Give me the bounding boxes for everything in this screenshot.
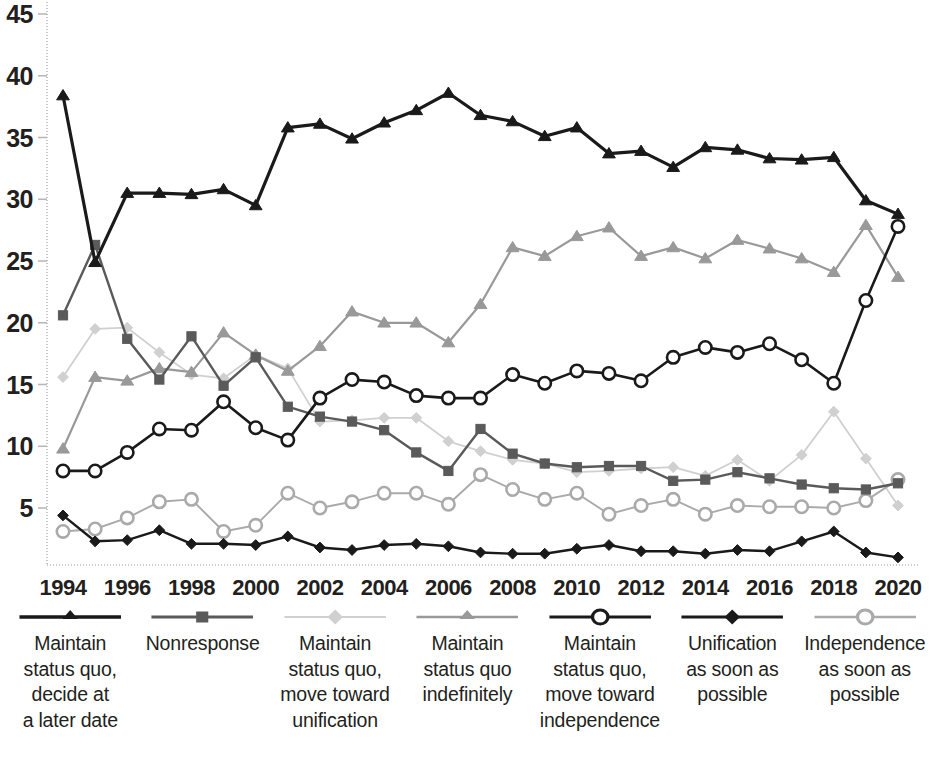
legend-item-5[interactable]: Unification as soon as possible: [666, 604, 798, 708]
data-point-marker: [315, 542, 326, 553]
data-point-marker: [219, 381, 228, 390]
data-point-marker: [732, 545, 743, 556]
data-point-marker: [668, 462, 679, 473]
series-group: [58, 322, 904, 511]
data-point-marker: [282, 434, 294, 446]
data-point-marker: [635, 499, 647, 511]
data-point-marker: [892, 271, 905, 281]
legend-item-6[interactable]: Independence as soon as possible: [799, 604, 931, 708]
y-tick-label: 5: [20, 494, 34, 522]
data-point-marker: [346, 373, 358, 385]
x-tick-label: 1998: [168, 575, 215, 600]
legend-swatch-circle-open-icon: [799, 604, 931, 630]
data-point-marker: [153, 362, 166, 372]
data-point-marker: [570, 122, 583, 132]
data-point-marker: [507, 548, 518, 559]
data-point-marker: [603, 222, 616, 232]
data-point-marker: [249, 422, 261, 434]
data-point-marker: [829, 484, 838, 493]
x-tick-label: 2000: [232, 575, 279, 600]
y-tick-label: 45: [6, 0, 33, 28]
chart-page: 5101520253035404519941996199820002002200…: [0, 0, 935, 758]
data-point-marker: [603, 508, 615, 520]
data-point-marker: [731, 234, 744, 244]
legend-item-2[interactable]: Maintain status quo, move toward unifica…: [269, 604, 401, 733]
data-point-marker: [57, 443, 70, 453]
data-point-marker: [539, 377, 551, 389]
data-point-marker: [732, 454, 743, 465]
data-point-marker: [763, 338, 775, 350]
legend-item-0[interactable]: Maintain status quo, decide at a later d…: [4, 604, 136, 733]
data-point-marker: [669, 476, 678, 485]
legend-swatch-diamond-icon: [269, 604, 401, 630]
legend-swatch-diamond-icon: [666, 604, 798, 630]
data-point-marker: [89, 371, 102, 381]
data-point-marker: [699, 341, 711, 353]
data-point-marker: [603, 367, 615, 379]
data-point-marker: [89, 465, 101, 477]
data-point-marker: [796, 536, 807, 547]
data-point-marker: [571, 487, 583, 499]
data-point-marker: [635, 375, 647, 387]
legend-item-3[interactable]: Maintain status quo indefinitely: [401, 604, 533, 708]
x-tick-label: 1996: [104, 575, 151, 600]
data-point-marker: [476, 424, 485, 433]
data-point-marker: [475, 547, 486, 558]
data-point-marker: [442, 392, 454, 404]
x-tick-label: 2016: [746, 575, 793, 600]
data-point-marker: [506, 483, 518, 495]
data-point-marker: [636, 546, 647, 557]
legend-label-4: Maintain status quo, move toward indepen…: [540, 631, 660, 733]
data-point-marker: [540, 459, 549, 468]
legend-marker: [725, 610, 740, 625]
data-point-marker: [860, 294, 872, 306]
legend-item-1[interactable]: Nonresponse: [136, 604, 268, 657]
data-point-marker: [572, 463, 581, 472]
legend-marker: [592, 610, 607, 624]
data-point-marker: [153, 423, 165, 435]
data-point-marker: [667, 493, 679, 505]
data-point-marker: [893, 552, 904, 563]
data-point-marker: [636, 461, 645, 470]
data-point-marker: [58, 372, 69, 383]
data-point-marker: [892, 220, 904, 232]
data-point-marker: [57, 525, 69, 537]
data-point-marker: [795, 354, 807, 366]
x-tick-label: 2018: [810, 575, 857, 600]
data-point-marker: [475, 446, 486, 457]
data-point-marker: [571, 365, 583, 377]
x-tick-label: 1994: [40, 575, 88, 600]
data-point-marker: [58, 311, 67, 320]
data-point-marker: [314, 392, 326, 404]
data-point-marker: [506, 241, 519, 251]
series-group: [57, 220, 904, 477]
data-point-marker: [282, 487, 294, 499]
data-point-marker: [122, 535, 133, 546]
legend-label-6: Independence as soon as possible: [804, 631, 925, 708]
data-point-marker: [89, 523, 101, 535]
data-point-marker: [410, 389, 422, 401]
chart-legend: Maintain status quo, decide at a later d…: [0, 604, 935, 758]
x-tick-label: 2004: [361, 575, 409, 600]
data-point-marker: [155, 375, 164, 384]
data-point-marker: [443, 541, 454, 552]
data-point-marker: [218, 538, 229, 549]
data-point-marker: [346, 496, 358, 508]
data-point-marker: [379, 412, 390, 423]
data-point-marker: [379, 540, 390, 551]
data-point-marker: [57, 465, 69, 477]
data-point-marker: [733, 468, 742, 477]
legend-item-4[interactable]: Maintain status quo, move toward indepen…: [534, 604, 666, 733]
y-tick-label: 10: [6, 432, 33, 460]
data-point-marker: [474, 298, 487, 308]
data-point-marker: [185, 424, 197, 436]
legend-label-5: Unification as soon as possible: [686, 631, 778, 708]
legend-label-2: Maintain status quo, move toward unifica…: [280, 631, 389, 733]
data-point-marker: [186, 538, 197, 549]
data-point-marker: [347, 545, 358, 556]
legend-marker: [62, 610, 77, 619]
series-layer: [57, 87, 905, 563]
data-point-marker: [763, 501, 775, 513]
data-point-marker: [314, 502, 326, 514]
data-point-marker: [731, 499, 743, 511]
